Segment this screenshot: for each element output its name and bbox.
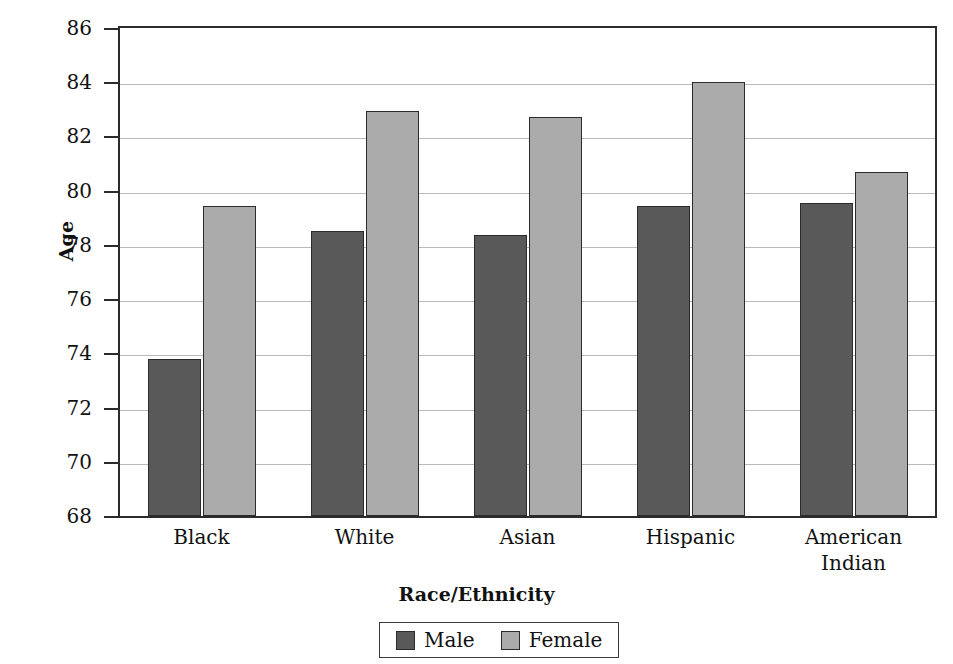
y-tick-label: 80	[32, 178, 92, 204]
x-tick-label-line: Asian	[446, 524, 609, 550]
y-tick-mark	[104, 245, 118, 247]
bar-black-female	[203, 206, 256, 516]
y-tick-label: 82	[32, 123, 92, 149]
bar-group	[609, 28, 772, 516]
legend-entry-male[interactable]: Male	[396, 629, 475, 651]
bar-white-male	[311, 231, 364, 516]
y-tick-label: 76	[32, 286, 92, 312]
x-tick-label: Hispanic	[609, 524, 772, 550]
bar-group	[283, 28, 446, 516]
legend-label: Female	[529, 629, 603, 651]
y-tick-mark	[104, 28, 118, 30]
bar-hispanic-female	[692, 82, 745, 516]
bar-hispanic-male	[637, 206, 690, 516]
x-tick-label-line: Indian	[772, 550, 935, 576]
x-tick-label: Asian	[446, 524, 609, 550]
y-tick-label: 84	[32, 69, 92, 95]
x-tick-label-line: Black	[120, 524, 283, 550]
y-tick-label: 78	[32, 232, 92, 258]
bar-group	[772, 28, 935, 516]
bar-chart-figure: Age 86848280787674727068 BlackWhiteAsian…	[0, 0, 953, 664]
bars-layer	[120, 28, 935, 516]
y-tick-label: 72	[32, 395, 92, 421]
bar-american-indian-female	[855, 172, 908, 516]
y-tick-mark	[104, 408, 118, 410]
legend-swatch-icon	[396, 631, 415, 650]
chart-legend: MaleFemale	[379, 622, 619, 658]
y-tick-mark	[104, 516, 118, 518]
y-tick-mark	[104, 82, 118, 84]
x-tick-label: Black	[120, 524, 283, 550]
y-tick-mark	[104, 353, 118, 355]
y-axis-ticks: 86848280787674727068	[0, 26, 118, 518]
x-tick-label: AmericanIndian	[772, 524, 935, 576]
y-tick-label: 70	[32, 449, 92, 475]
bar-group	[120, 28, 283, 516]
y-tick-label: 86	[32, 15, 92, 41]
x-tick-label-line: Hispanic	[609, 524, 772, 550]
y-tick-mark	[104, 191, 118, 193]
bar-asian-female	[529, 117, 582, 516]
bar-asian-male	[474, 235, 527, 516]
y-tick-label: 68	[32, 503, 92, 529]
legend-entry-female[interactable]: Female	[501, 629, 603, 651]
bar-white-female	[366, 111, 419, 516]
bar-american-indian-male	[800, 203, 853, 516]
x-tick-label-line: American	[772, 524, 935, 550]
legend-swatch-icon	[501, 631, 520, 650]
plot-area	[118, 26, 937, 518]
y-tick-mark	[104, 462, 118, 464]
y-tick-label: 74	[32, 340, 92, 366]
bar-group	[446, 28, 609, 516]
y-tick-mark	[104, 299, 118, 301]
y-tick-mark	[104, 136, 118, 138]
legend-label: Male	[424, 629, 475, 651]
x-tick-label-line: White	[283, 524, 446, 550]
x-tick-label: White	[283, 524, 446, 550]
bar-black-male	[148, 359, 201, 516]
x-axis-title: Race/Ethnicity	[0, 583, 953, 605]
